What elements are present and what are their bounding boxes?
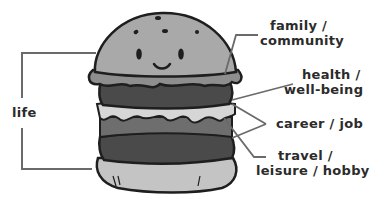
label-health-line1: health /	[292, 67, 363, 82]
label-travel-line1: travel /	[256, 148, 370, 163]
bottom-patty-icon	[99, 132, 234, 164]
label-health-wellbeing: health / well-being	[292, 67, 363, 97]
leader-lines	[224, 35, 293, 157]
label-health-line2: well-being	[284, 82, 363, 97]
label-family-line2: community	[260, 33, 344, 48]
burger-life-diagram: life family / community health / well-be…	[0, 0, 372, 197]
label-travel-leisure-hobby: travel / leisure / hobby	[256, 148, 370, 178]
label-family-community: family / community	[260, 18, 344, 48]
label-career-job: career / job	[276, 117, 363, 131]
label-life: life	[12, 106, 37, 120]
label-travel-line2: leisure / hobby	[256, 163, 370, 178]
label-family-line1: family /	[260, 18, 344, 33]
